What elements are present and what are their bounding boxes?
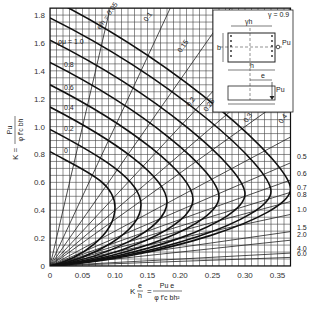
svg-text:0.8: 0.8 <box>64 61 74 68</box>
svg-text:0.30: 0.30 <box>237 271 253 280</box>
svg-text:2.0: 2.0 <box>297 231 307 238</box>
svg-text:1.0: 1.0 <box>297 206 307 213</box>
svg-text:Pu e: Pu e <box>160 282 175 289</box>
svg-text:0.35: 0.35 <box>270 271 286 280</box>
svg-text:0.1: 0.1 <box>142 10 153 22</box>
svg-text:K =: K = <box>11 147 20 160</box>
svg-text:0.2: 0.2 <box>64 125 74 132</box>
svg-text:1.2: 1.2 <box>34 95 46 104</box>
svg-text:γh: γh <box>245 18 253 26</box>
svg-text:0.8: 0.8 <box>297 191 307 198</box>
svg-text:ρμ = 1.0: ρμ = 1.0 <box>58 38 84 46</box>
svg-text:0: 0 <box>48 271 53 280</box>
svg-text:0.15: 0.15 <box>140 271 156 280</box>
svg-text:K: K <box>130 287 136 296</box>
svg-text:1.6: 1.6 <box>34 39 46 48</box>
svg-text:e: e <box>138 282 142 289</box>
section-inset: γhγ = 0.9bhePuPu <box>213 10 293 112</box>
svg-text:0.20: 0.20 <box>172 271 188 280</box>
svg-text:γ = 0.9: γ = 0.9 <box>268 11 289 19</box>
svg-text:e: e <box>261 72 265 79</box>
svg-text:0.4: 0.4 <box>64 104 74 111</box>
svg-text:0: 0 <box>41 262 46 271</box>
svg-text:Pu: Pu <box>282 39 291 46</box>
svg-text:Pu: Pu <box>276 86 285 93</box>
svg-text:=: = <box>147 287 152 296</box>
svg-text:1.0: 1.0 <box>34 123 46 132</box>
svg-text:0.8: 0.8 <box>34 150 46 159</box>
svg-text:0.15: 0.15 <box>176 38 190 53</box>
svg-text:0.2: 0.2 <box>34 234 46 243</box>
svg-text:6.0: 6.0 <box>297 250 307 257</box>
interaction-chart: γhγ = 0.9bhePuPu 00.050.100.150.200.250.… <box>0 0 317 311</box>
svg-text:0.6: 0.6 <box>34 178 46 187</box>
svg-text:0.6: 0.6 <box>64 84 74 91</box>
svg-text:1.5: 1.5 <box>297 224 307 231</box>
svg-text:h: h <box>250 62 254 69</box>
svg-text:0.10: 0.10 <box>107 271 123 280</box>
svg-text:1.4: 1.4 <box>34 67 46 76</box>
svg-text:0.5: 0.5 <box>297 153 307 160</box>
svg-text:φ f'c bh: φ f'c bh <box>17 118 25 141</box>
svg-text:φ f'c bh²: φ f'c bh² <box>154 294 180 302</box>
svg-text:b: b <box>217 44 221 51</box>
svg-text:0.4: 0.4 <box>277 112 288 124</box>
svg-text:0.25: 0.25 <box>205 271 221 280</box>
svg-text:1.8: 1.8 <box>34 11 46 20</box>
svg-text:Pu: Pu <box>6 126 13 135</box>
svg-text:0: 0 <box>64 147 68 154</box>
svg-text:0.05: 0.05 <box>75 271 91 280</box>
svg-text:0.7: 0.7 <box>297 184 307 191</box>
svg-text:0.6: 0.6 <box>297 170 307 177</box>
svg-text:0.4: 0.4 <box>34 206 46 215</box>
svg-text:h: h <box>138 292 142 299</box>
